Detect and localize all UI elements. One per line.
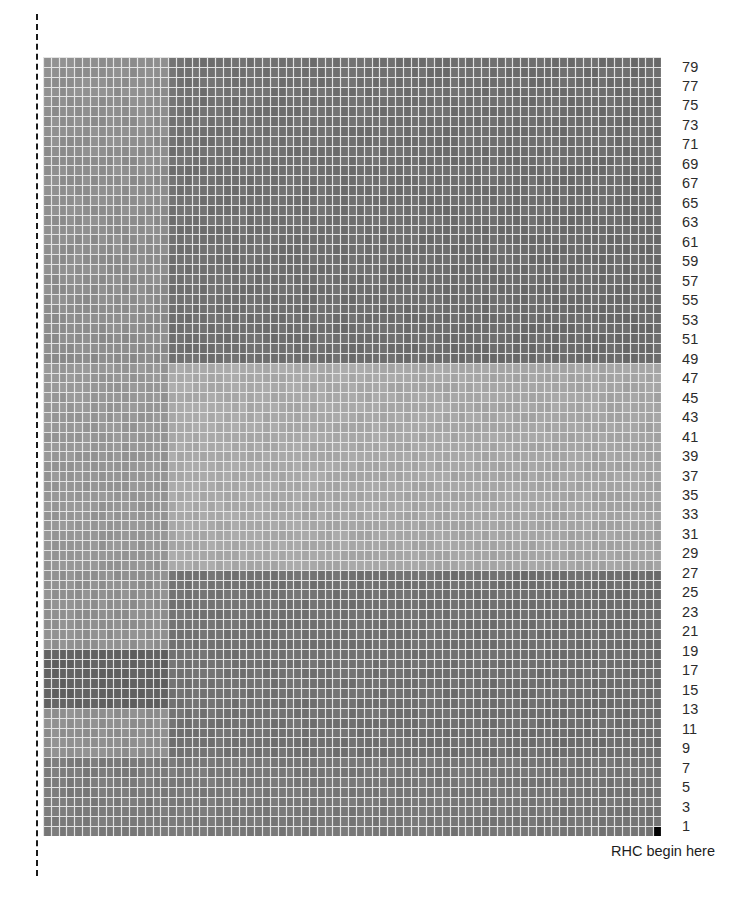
axis-tick-label: 19 [682,644,698,659]
axis-tick-label: 53 [682,313,698,328]
axis-tick-label: 13 [682,702,698,717]
axis-tick-label: 51 [682,332,698,347]
axis-tick-label: 33 [682,507,698,522]
axis-tick-label: 71 [682,137,698,152]
rhc-begin-here-caption: RHC begin here [611,843,715,859]
axis-tick-label: 39 [682,449,698,464]
heatmap-grid[interactable] [43,57,661,836]
axis-tick-label: 27 [682,566,698,581]
row-axis-tick-labels: 7977757371696765636159575553514947454341… [682,57,728,836]
axis-tick-label: 61 [682,235,698,250]
axis-tick-label: 7 [682,761,690,776]
axis-tick-label: 69 [682,157,698,172]
axis-tick-label: 9 [682,741,690,756]
axis-tick-label: 43 [682,410,698,425]
axis-tick-label: 5 [682,780,690,795]
axis-tick-label: 37 [682,469,698,484]
heatmap-plot-area[interactable] [43,57,661,836]
axis-tick-label: 17 [682,663,698,678]
axis-tick-label: 31 [682,527,698,542]
axis-tick-label: 45 [682,391,698,406]
axis-tick-label: 3 [682,800,690,815]
axis-tick-label: 67 [682,176,698,191]
axis-tick-label: 47 [682,371,698,386]
axis-tick-label: 41 [682,430,698,445]
axis-tick-label: 29 [682,546,698,561]
axis-tick-label: 75 [682,98,698,113]
axis-tick-label: 35 [682,488,698,503]
axis-tick-label: 23 [682,605,698,620]
axis-tick-label: 55 [682,293,698,308]
axis-tick-label: 1 [682,819,690,834]
axis-tick-label: 11 [682,722,697,737]
left-margin-dashed-line [36,14,38,876]
axis-tick-label: 65 [682,196,698,211]
axis-tick-label: 63 [682,215,698,230]
axis-tick-label: 73 [682,118,698,133]
axis-tick-label: 25 [682,585,698,600]
axis-tick-label: 57 [682,274,698,289]
axis-tick-label: 79 [682,60,698,75]
axis-tick-label: 15 [682,683,698,698]
axis-tick-label: 49 [682,352,698,367]
axis-tick-label: 21 [682,624,698,639]
axis-tick-label: 59 [682,254,698,269]
axis-tick-label: 77 [682,79,698,94]
